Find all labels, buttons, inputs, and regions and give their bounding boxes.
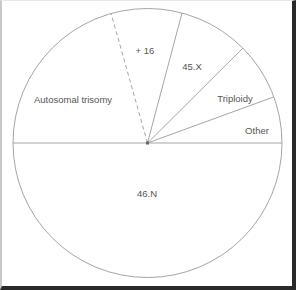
pie-center	[146, 142, 149, 145]
divider-other-triploidy	[148, 97, 274, 143]
label-triploidy: Triploidy	[217, 93, 253, 104]
label-other: Other	[245, 125, 269, 136]
pie-chart: Autosomal trisomy + 16 45.X Triploidy Ot…	[0, 0, 296, 290]
label-45x: 45.X	[182, 61, 202, 72]
divider-45x-plus16	[148, 13, 183, 143]
label-plus16: + 16	[136, 45, 155, 56]
label-autosomal-trisomy: Autosomal trisomy	[34, 94, 112, 105]
label-46n: 46.N	[137, 188, 157, 199]
divider-plus16-dashed	[111, 13, 148, 143]
